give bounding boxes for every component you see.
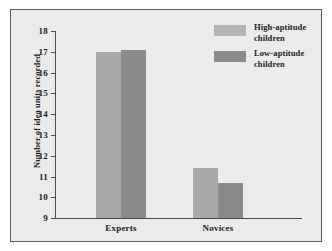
legend-label-low-aptitude: Low-aptitude children [254, 48, 324, 69]
y-tick-label: 11 [28, 173, 48, 182]
bar-novices-low-aptitude [218, 183, 243, 218]
y-tick-label: 15 [28, 89, 48, 98]
chart-legend: High-aptitude children Low-aptitude chil… [214, 23, 319, 75]
y-tick-label: 18 [28, 27, 48, 36]
y-tick-mark [51, 156, 56, 157]
y-tick-mark [51, 31, 56, 32]
x-axis-line [55, 218, 302, 219]
y-tick-label: 17 [28, 48, 48, 57]
legend-swatch-high-aptitude [214, 25, 246, 36]
legend-swatch-low-aptitude [214, 51, 246, 62]
bar-novices-high-aptitude [193, 168, 218, 218]
legend-label-low-aptitude-line1: Low-aptitude [254, 48, 324, 59]
bar-experts-high-aptitude [96, 52, 121, 218]
legend-label-high-aptitude-line2: children [254, 33, 324, 44]
y-tick-label: 14 [28, 110, 48, 119]
x-axis-label-experts: Experts [81, 223, 161, 233]
legend-item-low-aptitude: Low-aptitude children [214, 49, 319, 75]
legend-label-high-aptitude-line1: High-aptitude [254, 22, 324, 33]
legend-label-high-aptitude: High-aptitude children [254, 22, 324, 43]
y-tick-mark [51, 197, 56, 198]
y-tick-mark [51, 73, 56, 74]
y-tick-label: 12 [28, 152, 48, 161]
y-tick-mark [51, 177, 56, 178]
y-tick-mark [51, 135, 56, 136]
legend-label-low-aptitude-line2: children [254, 59, 324, 70]
y-tick-mark [51, 93, 56, 94]
x-axis-label-novices: Novices [178, 223, 258, 233]
legend-item-high-aptitude: High-aptitude children [214, 23, 319, 49]
y-axis-line [55, 31, 56, 219]
bar-experts-low-aptitude [121, 50, 146, 218]
chart-figure: Number of idea units recorded 1817161514… [10, 9, 322, 242]
y-tick-label: 9 [28, 214, 48, 223]
y-tick-label: 16 [28, 69, 48, 78]
y-tick-mark [51, 114, 56, 115]
plot-area: Number of idea units recorded 1817161514… [11, 10, 321, 241]
y-tick-label: 10 [28, 193, 48, 202]
y-tick-mark [51, 52, 56, 53]
y-tick-mark [51, 218, 56, 219]
y-tick-label: 13 [28, 131, 48, 140]
